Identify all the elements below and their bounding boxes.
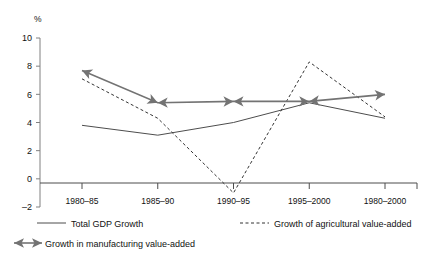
arrow-marker-icon	[80, 66, 93, 79]
series-line-total-gdp-growth	[82, 103, 385, 135]
y-tick-label: 8	[27, 61, 32, 71]
series-markers-manufacturing	[80, 66, 386, 108]
y-tick-label: –2	[22, 202, 32, 212]
y-tick-label: 4	[27, 118, 32, 128]
y-axis-ticks: –20246810	[22, 33, 40, 212]
x-tick-label: 1995–2000	[288, 196, 331, 206]
series-line-manufacturing-value-added	[82, 70, 385, 102]
arrow-marker-icon	[147, 94, 160, 107]
line-chart: % –20246810 1980–851985–901990–951995–20…	[0, 0, 439, 257]
legend-swatch-manufacturing-value-added	[14, 238, 42, 248]
legend-label-agricultural-value-added: Growth of agricultural value-added	[274, 219, 412, 229]
x-axis-category-labels: 1980–851985–901990–951995–20001980–2000	[65, 196, 406, 206]
x-tick-label: 1980–85	[65, 196, 98, 206]
x-tick-label: 1985–90	[141, 196, 174, 206]
y-tick-label: 2	[27, 146, 32, 156]
chart-legend: Total GDP Growth Growth of agricultural …	[14, 219, 412, 249]
chart-container: % –20246810 1980–851985–901990–951995–20…	[0, 0, 439, 257]
legend-label-total-gdp-growth: Total GDP Growth	[71, 219, 143, 229]
x-tick-label: 1990–95	[217, 196, 250, 206]
legend-label-manufacturing-value-added: Growth in manufacturing value-added	[45, 239, 195, 249]
y-tick-label: 0	[27, 174, 32, 184]
series-line-agricultural-value-added	[82, 62, 385, 193]
x-tick-label: 1980–2000	[364, 196, 407, 206]
x-axis-ticks	[82, 183, 417, 189]
y-axis-unit-label: %	[34, 14, 42, 24]
y-tick-label: 10	[22, 33, 32, 43]
y-tick-label: 6	[27, 90, 32, 100]
